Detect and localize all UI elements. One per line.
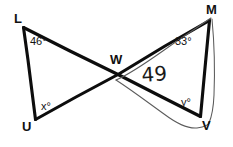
angle-label-U-x: x° xyxy=(41,100,51,112)
segment-M-V xyxy=(201,21,210,117)
vertex-label-U: U xyxy=(22,119,31,134)
angle-label-M-33: 33° xyxy=(175,35,192,47)
geometry-canvas: L U W M V 46° x° 33° y° 49 xyxy=(0,0,233,147)
vertex-label-V: V xyxy=(202,118,211,133)
geometry-figure: L U W M V 46° x° 33° y° 49 xyxy=(0,0,233,147)
vertex-label-M: M xyxy=(206,2,217,17)
vertex-label-L: L xyxy=(14,11,22,26)
annotation-trace-W-to-V xyxy=(116,80,209,128)
vertex-label-W: W xyxy=(110,52,123,67)
handwritten-annotation-49: 49 xyxy=(141,61,168,87)
annotation-trace-M-to-V xyxy=(209,19,214,123)
angle-label-V-y: y° xyxy=(181,96,191,108)
angle-label-L-46: 46° xyxy=(30,35,47,47)
